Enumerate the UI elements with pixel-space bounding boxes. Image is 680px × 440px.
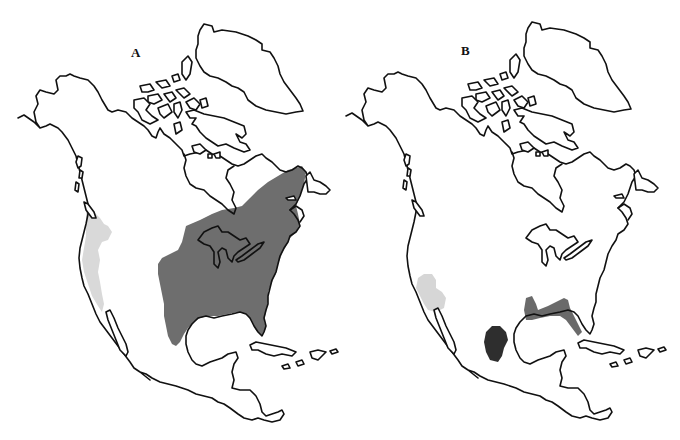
map-b-texas-mexico-range xyxy=(484,326,508,362)
map-a-eastern-range xyxy=(158,166,306,346)
maps-svg xyxy=(0,0,680,440)
panel-label-b: B xyxy=(461,43,470,59)
map-a xyxy=(18,24,338,422)
panel-label-a: A xyxy=(131,45,140,61)
map-b-southwest-range xyxy=(416,274,446,312)
map-b xyxy=(346,22,666,420)
map-b-gulf-coast-range xyxy=(524,296,582,336)
range-map-figure: A B xyxy=(0,0,680,440)
